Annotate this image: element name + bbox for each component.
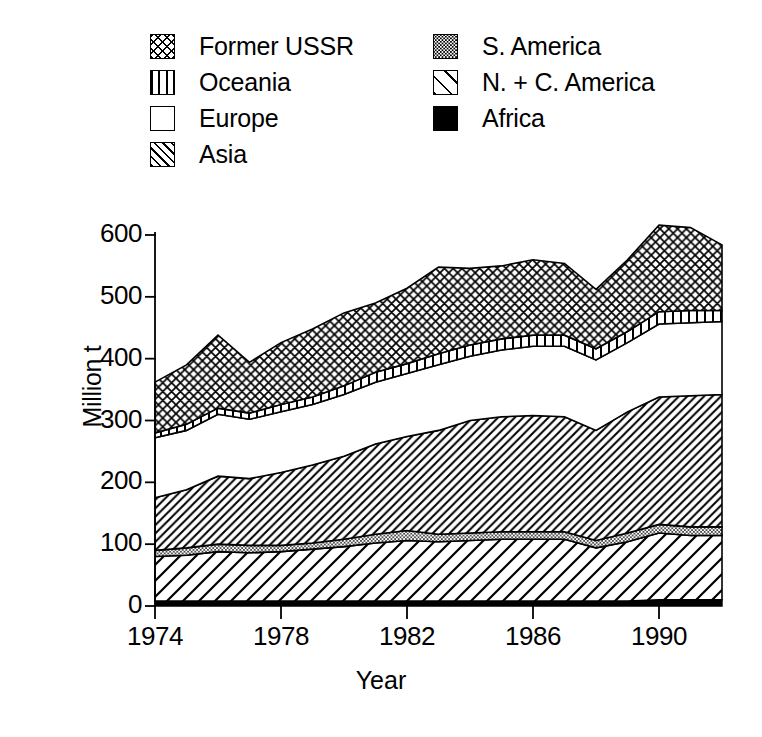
- x-tick-label: 1974: [95, 623, 215, 649]
- x-axis-label: Year: [0, 666, 762, 695]
- y-tick-label: 100: [30, 529, 142, 555]
- x-tick-label: 1982: [347, 623, 467, 649]
- x-tick-label: 1990: [599, 623, 719, 649]
- x-tick-label: 1986: [473, 623, 593, 649]
- y-tick-label: 0: [30, 591, 142, 617]
- x-tick-label: 1978: [221, 623, 341, 649]
- y-tick-label: 600: [30, 220, 142, 246]
- y-axis-label: Million t: [78, 317, 107, 457]
- area-layers: [155, 225, 722, 606]
- y-tick-label: 400: [30, 344, 142, 370]
- y-tick-label: 500: [30, 282, 142, 308]
- y-tick-label: 200: [30, 467, 142, 493]
- y-tick-label: 300: [30, 406, 142, 432]
- plot-area: Million t Year 6005004003002001000 19741…: [0, 0, 762, 737]
- chart-figure: Former USSR Oceania Europe Asia S. Ameri…: [0, 0, 762, 737]
